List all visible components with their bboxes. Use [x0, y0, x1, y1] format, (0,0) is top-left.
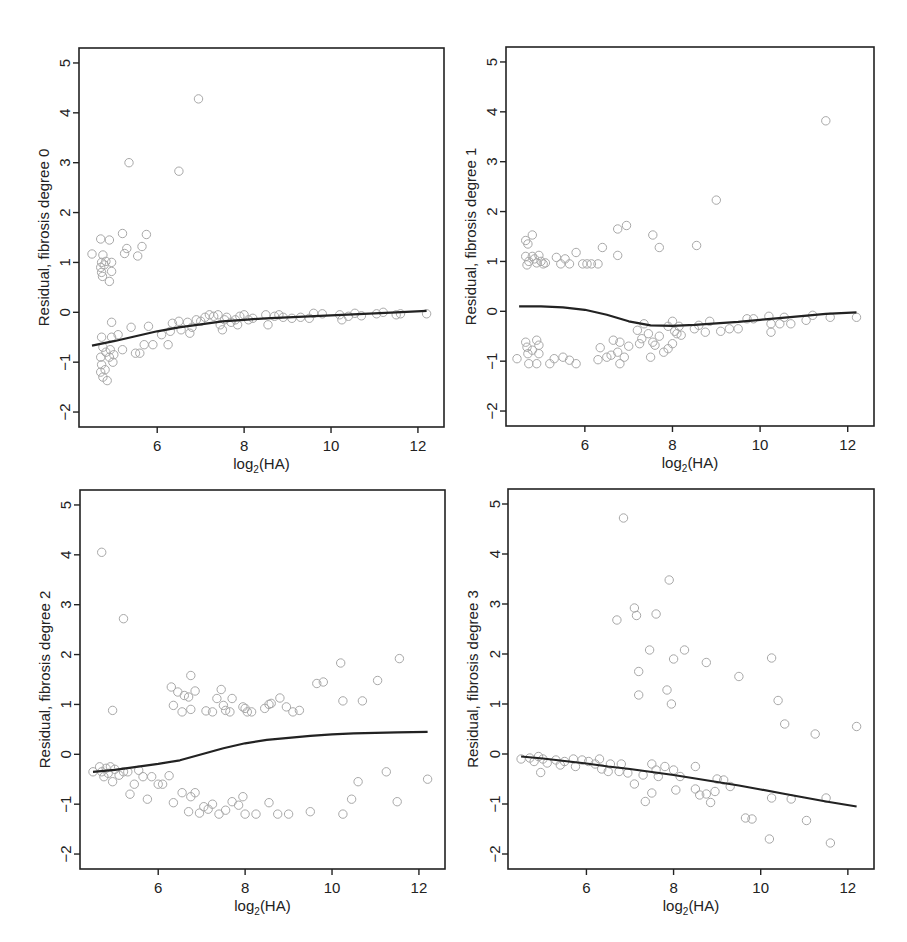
- y-tick-label: 1: [58, 700, 75, 708]
- data-point: [702, 658, 710, 666]
- data-point: [717, 327, 725, 335]
- smoothed-trend-line: [93, 732, 428, 772]
- data-point: [187, 671, 195, 679]
- data-point: [264, 321, 272, 329]
- data-point: [139, 773, 147, 781]
- data-point: [513, 355, 521, 363]
- plot-frame: [506, 47, 874, 426]
- data-point: [635, 340, 643, 348]
- data-point: [594, 356, 602, 364]
- data-point: [619, 514, 627, 522]
- y-tick-label: 5: [57, 59, 74, 67]
- y-tick-label: −1: [57, 354, 74, 371]
- data-point: [120, 249, 128, 257]
- data-point: [119, 615, 127, 623]
- y-tick-label: 3: [484, 158, 501, 166]
- scatter-panel-1: 681012log2(HA)−2−1012345Residual, fibros…: [462, 47, 875, 474]
- y-tick-label: 3: [486, 600, 503, 608]
- data-point: [572, 360, 580, 368]
- x-tick-label: 6: [582, 879, 590, 896]
- data-point: [105, 236, 113, 244]
- data-point: [767, 320, 775, 328]
- data-point: [680, 646, 688, 654]
- data-point: [630, 780, 638, 788]
- x-tick-label: 8: [669, 879, 677, 896]
- data-point: [234, 801, 242, 809]
- data-point: [691, 762, 699, 770]
- data-point: [178, 708, 186, 716]
- data-point: [711, 787, 719, 795]
- data-points: [513, 117, 861, 368]
- data-point: [228, 798, 236, 806]
- data-point: [802, 816, 810, 824]
- x-tick-label: 10: [752, 436, 769, 453]
- data-point: [105, 277, 113, 285]
- data-points: [88, 95, 431, 385]
- data-point: [97, 235, 105, 243]
- x-tick-label: 12: [411, 879, 428, 896]
- data-point: [208, 708, 216, 716]
- data-point: [550, 355, 558, 363]
- plot-frame: [79, 48, 444, 427]
- y-axis: −2−1012345Residual, fibrosis degree 3: [464, 500, 509, 863]
- y-axis: −2−1012345Residual, fibrosis degree 1: [462, 58, 507, 420]
- data-point: [811, 730, 819, 738]
- y-tick-label: 0: [486, 750, 503, 758]
- data-point: [358, 697, 366, 705]
- y-tick-label: 0: [57, 308, 74, 316]
- data-point: [632, 611, 640, 619]
- data-point: [641, 797, 649, 805]
- data-point: [108, 706, 116, 714]
- x-tick-label: 12: [410, 437, 427, 454]
- data-point: [98, 548, 106, 556]
- data-point: [219, 701, 227, 709]
- data-point: [97, 333, 105, 341]
- data-point: [620, 353, 628, 361]
- data-point: [221, 806, 229, 814]
- y-axis: −2−1012345Residual, fibrosis degree 0: [35, 59, 80, 421]
- data-point: [822, 117, 830, 125]
- data-point: [852, 722, 860, 730]
- y-tick-label: −2: [484, 402, 501, 419]
- data-point: [130, 780, 138, 788]
- y-axis-title: Residual, fibrosis degree 1: [462, 148, 479, 326]
- data-points: [89, 548, 432, 818]
- y-tick-label: 5: [486, 500, 503, 508]
- data-point: [126, 790, 134, 798]
- data-point: [596, 344, 604, 352]
- data-point: [557, 260, 565, 268]
- data-point: [265, 799, 273, 807]
- data-point: [178, 789, 186, 797]
- plot-frame: [508, 489, 874, 869]
- y-axis-title: Residual, fibrosis degree 3: [464, 590, 481, 768]
- data-point: [217, 685, 225, 693]
- data-point: [633, 326, 641, 334]
- data-point: [665, 576, 673, 584]
- data-point: [648, 760, 656, 768]
- data-point: [648, 789, 656, 797]
- data-point: [213, 694, 221, 702]
- data-point: [663, 686, 671, 694]
- data-point: [533, 360, 541, 368]
- data-point: [706, 798, 714, 806]
- data-point: [191, 687, 199, 695]
- data-point: [565, 260, 573, 268]
- data-point: [138, 242, 146, 250]
- y-tick-label: −1: [484, 353, 501, 370]
- x-tick-label: 6: [153, 437, 161, 454]
- x-tick-label: 10: [324, 879, 341, 896]
- y-tick-label: 4: [57, 109, 74, 117]
- y-tick-label: 3: [58, 601, 75, 609]
- data-point: [613, 616, 621, 624]
- data-point: [644, 330, 652, 338]
- data-point: [691, 785, 699, 793]
- data-point: [735, 672, 743, 680]
- y-tick-label: 5: [484, 58, 501, 66]
- data-point: [175, 167, 183, 175]
- data-point: [535, 350, 543, 358]
- x-tick-label: 8: [668, 436, 676, 453]
- data-point: [140, 341, 148, 349]
- y-tick-label: 1: [484, 257, 501, 265]
- data-point: [622, 221, 630, 229]
- data-point: [395, 654, 403, 662]
